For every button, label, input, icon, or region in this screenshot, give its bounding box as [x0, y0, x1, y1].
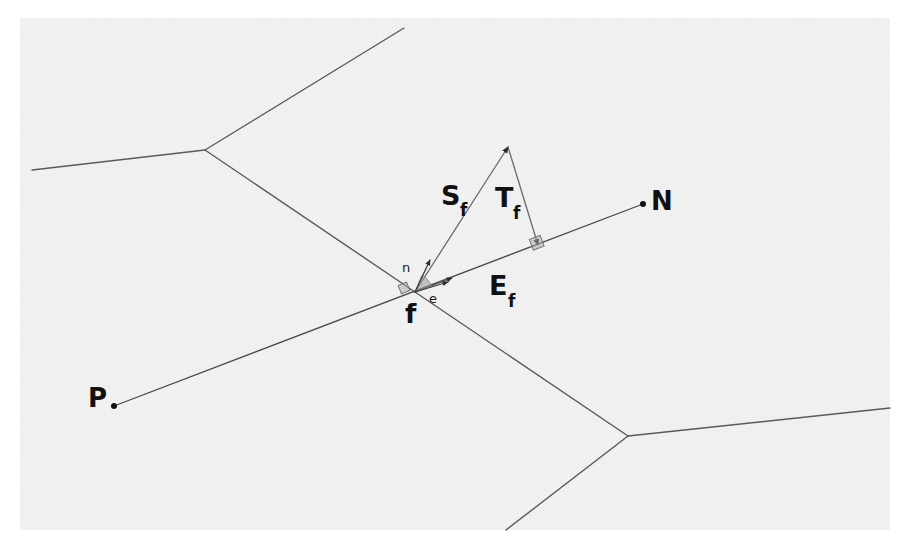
label-T-axis-subscript: f	[513, 203, 521, 223]
site-dot-P	[111, 403, 117, 409]
label-S-axis: S	[441, 180, 460, 211]
scan-paper-background	[20, 18, 890, 530]
label-E-axis-subscript: f	[508, 291, 516, 311]
label-unit-vector-e: e	[429, 291, 437, 306]
label-E-axis: E	[489, 270, 507, 301]
label-T-axis: T	[495, 182, 514, 213]
label-site-P: P	[88, 383, 107, 413]
diagram-canvas: S f T f E f N P f n e	[0, 0, 902, 552]
label-face-center-f: f	[405, 299, 417, 329]
site-dot-N	[640, 201, 646, 207]
label-S-axis-subscript: f	[460, 200, 468, 220]
geometry-diagram: S f T f E f N P f n e	[0, 0, 902, 552]
label-unit-vector-n: n	[402, 260, 410, 275]
label-site-N: N	[651, 186, 673, 216]
